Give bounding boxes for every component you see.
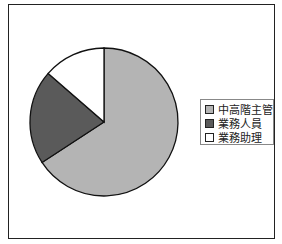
legend-item-senior-managers: 中高階主管 [205,102,273,116]
legend-swatch-icon [205,105,214,114]
legend-swatch-icon [205,133,214,142]
legend: 中高階主管 業務人員 業務助理 [200,99,274,145]
legend-item-sales-assistants: 業務助理 [205,130,273,144]
legend-swatch-icon [205,119,214,128]
legend-label: 業務助理 [218,129,262,145]
legend-item-sales-staff: 業務人員 [205,116,273,130]
